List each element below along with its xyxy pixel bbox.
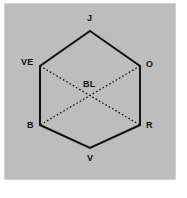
- center-label-bl: BL: [83, 80, 95, 89]
- figure-root: J O R V B VE BL: [0, 0, 187, 198]
- vertex-label-b: B: [27, 121, 34, 130]
- vertex-label-r: R: [146, 121, 153, 130]
- vertex-label-j: J: [87, 14, 92, 23]
- vertex-label-v: V: [87, 154, 93, 163]
- vertex-label-ve: VE: [21, 58, 33, 67]
- vertex-label-o: O: [146, 60, 153, 69]
